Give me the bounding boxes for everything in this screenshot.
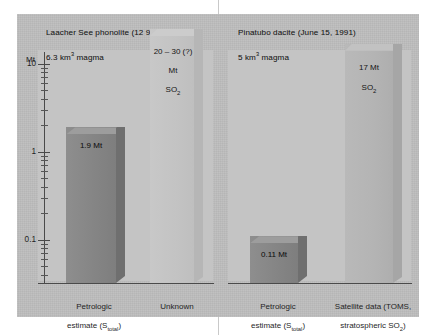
bar-pinatubo-petrologic: 0.11 Mt	[250, 236, 298, 283]
category-line1: Petrologic	[240, 302, 316, 312]
category-label-pinatubo-petrologic: Petrologic estimate (Stotal)	[240, 292, 316, 335]
y-tick-minor	[41, 266, 48, 267]
category-subscript: total	[107, 326, 118, 332]
category-text-end: )	[302, 321, 305, 330]
y-tick-major	[38, 240, 50, 241]
y-tick-minor	[41, 68, 48, 69]
y-tick-minor	[41, 253, 48, 254]
y-tick-minor	[41, 156, 48, 157]
category-text: estimate (S	[251, 321, 291, 330]
bar-side	[116, 127, 125, 283]
category-subscript: total	[291, 326, 302, 332]
category-label-laacher-unknown: Unknown	[140, 292, 214, 321]
category-label-laacher-petrologic: Petrologic estimate (Stotal)	[56, 292, 132, 335]
y-tick-minor	[41, 275, 48, 276]
bar-value-pinatubo-satellite: 17 Mt SO2	[341, 54, 397, 106]
y-tick-minor	[41, 90, 48, 91]
category-text-end: )	[403, 321, 406, 330]
y-tick-minor	[41, 99, 48, 100]
y-tick-minor	[41, 248, 48, 249]
category-text: estimate (S	[67, 321, 107, 330]
category-line2: estimate (Stotal)	[240, 321, 316, 334]
bar-top	[150, 29, 194, 36]
y-tick-minor	[41, 171, 48, 172]
magma-volume-laacher-suffix: magma	[74, 53, 104, 62]
baseline-left	[38, 283, 214, 284]
bar-laacher-petrologic: 1.9 Mt	[66, 127, 116, 283]
magma-volume-pinatubo-suffix: magma	[259, 53, 289, 62]
y-tick-minor	[41, 244, 48, 245]
y-tick-minor	[41, 213, 48, 214]
y-tick-minor	[41, 110, 48, 111]
magma-volume-laacher: 6.3 km	[46, 53, 71, 62]
y-tick-minor	[41, 178, 48, 179]
bar-top	[345, 44, 393, 51]
y-tick-label: 1	[4, 147, 36, 156]
category-line2: estimate (Stotal)	[56, 321, 132, 334]
y-tick-minor	[41, 77, 48, 78]
panel-title-pinatubo-line1: Pinatubo dacite (June 15, 1991)	[238, 28, 413, 38]
satellite-species: SO2	[341, 83, 397, 96]
y-tick-minor	[41, 83, 48, 84]
bar-value-pinatubo-petrologic: 0.11 Mt	[250, 250, 298, 260]
category-line2: stratospheric SO2)	[330, 321, 416, 334]
unknown-unit: Mt	[146, 66, 200, 76]
satellite-species-subscript: 2	[373, 87, 376, 93]
category-text-end: )	[118, 321, 121, 330]
y-tick-major	[38, 64, 50, 65]
category-line1: Unknown	[140, 302, 214, 312]
y-tick-label: 10	[4, 59, 36, 68]
bar-value-laacher-petrologic: 1.9 Mt	[66, 141, 116, 151]
unknown-species-subscript: 2	[177, 90, 180, 96]
y-tick-minor	[41, 165, 48, 166]
baseline-right	[228, 283, 412, 284]
unknown-species-text: SO	[166, 85, 178, 94]
category-line1: Satellite data (TOMS,	[330, 302, 416, 312]
satellite-amount: 17 Mt	[341, 63, 397, 73]
y-tick-minor	[41, 72, 48, 73]
category-text: stratospheric SO	[340, 321, 400, 330]
satellite-species-text: SO	[362, 83, 374, 92]
y-tick-minor	[41, 160, 48, 161]
y-tick-major	[38, 152, 50, 153]
y-axis-line	[44, 52, 45, 284]
y-tick-minor	[41, 187, 48, 188]
category-line1: Petrologic	[56, 302, 132, 312]
y-tick-minor	[41, 259, 48, 260]
figure-root: Laacher See phonolite (12 900 B.P.) 6.3 …	[0, 0, 436, 335]
unknown-range: 20 – 30 (?)	[146, 47, 200, 57]
y-tick-minor	[41, 125, 48, 126]
magma-volume-pinatubo: 5 km	[238, 53, 256, 62]
bar-side	[298, 236, 307, 283]
unknown-species: SO2	[146, 85, 200, 98]
bar-value-laacher-unknown: 20 – 30 (?) Mt SO2	[146, 37, 200, 108]
y-tick-minor	[41, 198, 48, 199]
category-label-pinatubo-satellite: Satellite data (TOMS, stratospheric SO2)	[330, 292, 416, 335]
y-tick-label: 0.1	[4, 235, 36, 244]
